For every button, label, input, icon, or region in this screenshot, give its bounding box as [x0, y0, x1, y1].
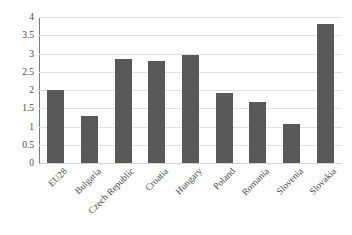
- y-axis-tick-label: 2: [2, 85, 34, 95]
- bar: [115, 59, 132, 163]
- y-axis-tick-label: 3.5: [2, 30, 34, 40]
- x-axis-tick-labels: EU28BulgariaCzech RepublicCroatiaHungary…: [39, 164, 342, 235]
- y-axis-tick-label: 2.5: [2, 67, 34, 77]
- bars-series: [39, 17, 342, 163]
- bar: [47, 90, 64, 163]
- y-axis-tick-label: 0.5: [2, 140, 34, 150]
- y-axis-tick-label: 1: [2, 122, 34, 132]
- bar: [182, 55, 199, 163]
- y-axis-tick-label: 3: [2, 49, 34, 59]
- bar-chart-figure: 43.532.521.510.50 EU28BulgariaCzech Repu…: [0, 0, 352, 235]
- bar: [216, 93, 233, 163]
- y-axis-tick-label: 0: [2, 158, 34, 168]
- plot-area: [39, 17, 342, 163]
- y-axis-tick-label: 1.5: [2, 103, 34, 113]
- bar: [283, 124, 300, 163]
- y-axis-tick-label: 4: [2, 12, 34, 22]
- y-axis-tick-labels: 43.532.521.510.50: [0, 17, 34, 163]
- bar: [148, 61, 165, 163]
- x-axis-tick-label: EU28: [0, 166, 70, 235]
- bar: [81, 116, 98, 163]
- bar: [249, 102, 266, 163]
- bar: [317, 24, 334, 163]
